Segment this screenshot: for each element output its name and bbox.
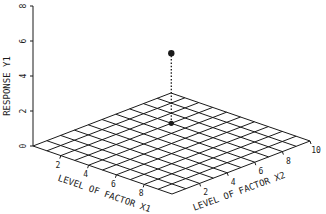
x1-tick-label: 2 (55, 161, 60, 170)
grid-line-x2 (130, 109, 269, 157)
x1-tick-label: 6 (111, 180, 116, 189)
response-tick-label: 6 (19, 38, 28, 43)
x2-tick-label: 2 (203, 188, 208, 197)
grid-line-x1 (130, 127, 268, 180)
response-tick-labels: 02468 (19, 3, 28, 148)
x2-tick (310, 141, 311, 144)
grid-line-x2 (171, 93, 310, 141)
grid-line-x2 (116, 114, 255, 162)
grid-line-x1 (144, 131, 282, 184)
grid-line-x2 (143, 104, 282, 152)
x2-tick-labels: 246810 (203, 146, 321, 197)
response-surface-chart: 02468 2468 246810 RESPONSE Y1 LEVEL OF F… (0, 0, 326, 214)
response-axis-title: RESPONSE Y1 (2, 56, 12, 116)
axis-ticks (30, 6, 311, 187)
response-tick-label: 4 (19, 73, 28, 78)
response-tick-label: 8 (19, 3, 28, 8)
x2-tick (200, 183, 201, 186)
x2-tick (255, 162, 256, 165)
base-point-marker (169, 121, 174, 126)
grid-line-x1 (116, 122, 254, 175)
x2-tick (282, 152, 283, 155)
x2-tick (227, 173, 228, 176)
grid-line-x2 (102, 120, 241, 168)
x1-tick (115, 175, 116, 178)
x1-tick (143, 184, 144, 187)
response-point-marker (168, 50, 174, 56)
response-tick-label: 2 (19, 108, 28, 113)
response-tick-label: 0 (19, 143, 28, 148)
grid-line-x2 (157, 98, 296, 146)
x2-tick-label: 4 (231, 178, 236, 187)
x1-tick-label: 8 (139, 189, 144, 198)
x2-tick-label: 8 (286, 157, 291, 166)
x1-tick (88, 165, 89, 168)
x2-tick-label: 6 (258, 167, 263, 176)
x1-tick (60, 156, 61, 159)
x2-tick-label: 10 (311, 146, 321, 155)
x1-tick-label: 4 (83, 170, 88, 179)
